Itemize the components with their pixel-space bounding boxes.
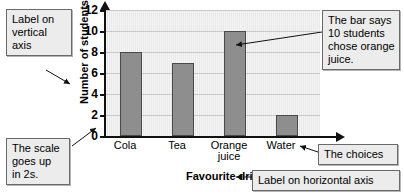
x-axis-arrow-icon: [336, 132, 345, 142]
bar-tea: [172, 63, 194, 137]
x-tick-label-orange-juice: Orange juice: [204, 140, 254, 162]
y-tick: [100, 136, 105, 138]
y-tick: [100, 73, 105, 75]
y-tick: [100, 31, 105, 33]
annotation-line: Label on: [12, 13, 66, 26]
annotation-line: chose orange: [328, 40, 394, 53]
chart-figure: 12 10 8 6 4 2 0 Number of students Cola …: [0, 0, 404, 194]
annotation-line: axis: [12, 39, 66, 52]
x-tick-label-water: Water: [256, 140, 306, 151]
x-tick-label-line: Water: [256, 140, 306, 151]
bar-series: [106, 10, 320, 136]
y-tick: [100, 10, 105, 12]
y-axis-arrow-icon: [100, 1, 110, 10]
annotation-orange-juice-bar-note: The bar says 10 students chose orange ju…: [322, 10, 400, 70]
y-tick-label: 0: [74, 130, 98, 142]
y-tick: [100, 115, 105, 117]
bar-orange-juice: [224, 31, 246, 136]
annotation-line: Label on horizontal axis: [258, 174, 394, 187]
annotation-choices-note: The choices: [318, 144, 398, 165]
annotation-horizontal-axis-label: Label on horizontal axis: [252, 170, 400, 191]
x-tick-label-line: juice: [204, 151, 254, 162]
annotation-line: The scale: [12, 142, 64, 155]
y-axis-title: Number of students: [78, 0, 90, 108]
annotation-scale-note: The scale goes up in 2s.: [6, 138, 70, 185]
x-tick-label-line: Tea: [152, 140, 202, 151]
y-tick: [100, 94, 105, 96]
y-tick: [100, 52, 105, 54]
annotation-line: vertical: [12, 26, 66, 39]
x-tick-label-line: Cola: [100, 140, 150, 151]
bar-cola: [120, 52, 142, 136]
x-axis-line: [104, 136, 340, 138]
annotation-line: juice.: [328, 53, 394, 66]
annotation-line: The bar says: [328, 14, 394, 27]
x-tick-label-tea: Tea: [152, 140, 202, 151]
y-tick-label: 2: [74, 109, 98, 121]
annotation-line: in 2s.: [12, 168, 64, 181]
annotation-line: The choices: [324, 148, 392, 161]
bar-water: [276, 115, 298, 136]
annotation-line: 10 students: [328, 27, 394, 40]
annotation-line: goes up: [12, 155, 64, 168]
x-tick-label-cola: Cola: [100, 140, 150, 151]
annotation-vertical-axis-label: Label on vertical axis: [6, 9, 72, 56]
